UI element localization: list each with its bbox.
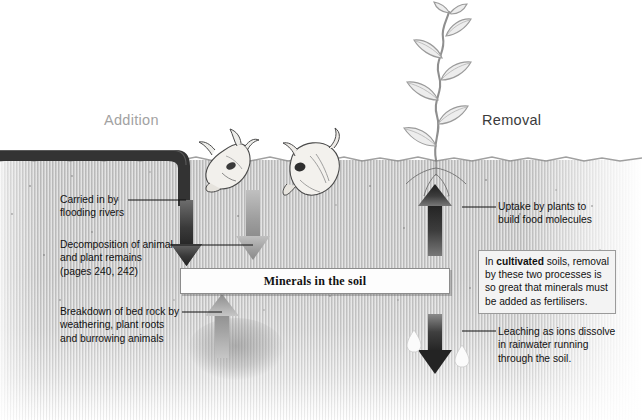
- minerals-in-the-soil-bar: Minerals in the soil: [180, 268, 450, 294]
- callout-decomposition: Decomposition of animal and plant remain…: [60, 238, 173, 278]
- removal-heading: Removal: [482, 112, 541, 128]
- callout-plant-uptake: Uptake by plants to build food molecules: [498, 200, 592, 227]
- cultivated-soils-note: In cultivated soils, removal by these tw…: [478, 250, 616, 314]
- bed-rock-region: [188, 318, 284, 380]
- plant-seedling-icon: [404, 2, 471, 160]
- soil-mineral-cycle-diagram: Minerals in the soil Addition Removal Ca…: [0, 0, 642, 420]
- minerals-in-the-soil-label: Minerals in the soil: [264, 274, 366, 289]
- addition-heading: Addition: [104, 112, 159, 128]
- callout-bed-rock-breakdown: Breakdown of bed rock by weathering, pla…: [60, 305, 179, 345]
- note-text-part1: In: [485, 256, 496, 267]
- note-emphasis: cultivated: [496, 256, 544, 267]
- callout-leaching: Leaching as ions dissolve in rainwater r…: [498, 325, 615, 365]
- callout-flooding-rivers: Carried in by flooding rivers: [60, 193, 124, 220]
- soil-fade-left: [0, 160, 40, 420]
